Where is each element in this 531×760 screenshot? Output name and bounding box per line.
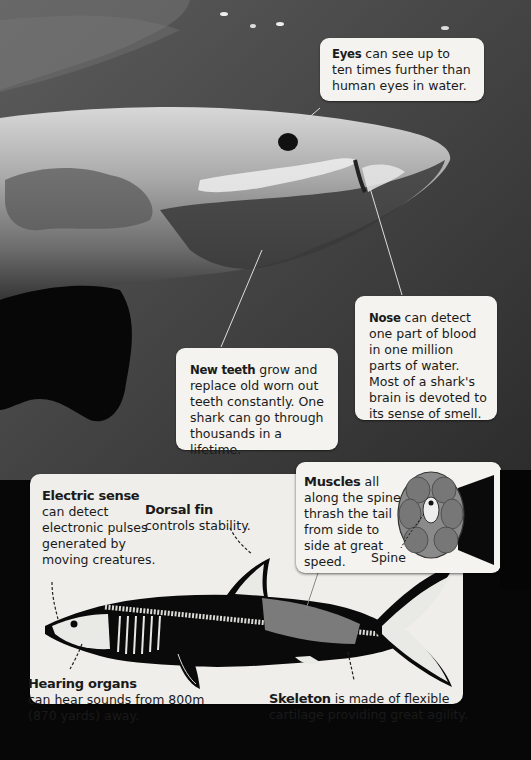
eyes-title: Eyes — [332, 46, 361, 61]
skeleton-label: Skeleton is made of flexible cartilage p… — [269, 691, 469, 723]
electric-sense-title: Electric sense — [42, 488, 162, 504]
dorsal-fin-label: Dorsal fin controls stability. — [145, 502, 275, 534]
spine-label: Spine — [371, 550, 406, 566]
electric-sense-text: can detect electronic pulses generated b… — [42, 504, 162, 568]
shark-photo: Eyes can see up to ten times further tha… — [0, 0, 531, 480]
dorsal-fin-title: Dorsal fin — [145, 502, 275, 518]
hearing-organs-text: can hear sounds from 800m (870 yards) aw… — [28, 692, 228, 724]
tail-shadow — [500, 470, 531, 590]
hearing-organs-title: Hearing organs — [28, 676, 228, 692]
nose-text: can detect one part of blood in one mill… — [369, 310, 487, 421]
electric-sense-label: Electric sense can detect electronic pul… — [42, 488, 162, 568]
skeleton-title: Skeleton — [269, 691, 331, 706]
dorsal-fin-text: controls stability. — [145, 518, 275, 534]
nose-title: Nose — [369, 310, 401, 325]
new-teeth-callout: New teeth grow and replace old worn out … — [176, 348, 338, 450]
muscles-title: Muscles — [304, 474, 361, 489]
hearing-organs-label: Hearing organs can hear sounds from 800m… — [28, 676, 228, 724]
new-teeth-title: New teeth — [190, 362, 255, 377]
spine-cross-section-icon — [396, 470, 496, 570]
muscles-callout: Muscles all along the spine thrash the t… — [296, 462, 501, 573]
eyes-callout: Eyes can see up to ten times further tha… — [320, 38, 484, 101]
nose-callout: Nose can detect one part of blood in one… — [355, 296, 497, 420]
